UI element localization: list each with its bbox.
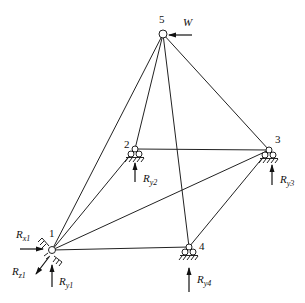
node-4-roller-support xyxy=(179,244,198,260)
member-2-5 xyxy=(135,34,163,149)
member-1-3 xyxy=(52,150,269,250)
member-3-4 xyxy=(189,150,269,247)
node-1-joint xyxy=(49,247,56,254)
node-5-joint xyxy=(159,30,167,38)
node-3-label: 3 xyxy=(275,133,281,145)
member-1-5 xyxy=(52,34,163,250)
reaction-ry4-label: Ry4 xyxy=(196,273,211,288)
node-2-label: 2 xyxy=(124,138,130,150)
load-w-label: W xyxy=(183,16,193,28)
node-1-label: 1 xyxy=(49,227,55,239)
reaction-ry2-label: Ry2 xyxy=(142,172,157,187)
reaction-rx1-label: Rx1 xyxy=(15,228,30,243)
member-3-5 xyxy=(163,34,269,150)
node-5-label: 5 xyxy=(159,13,165,25)
truss-diagram: 5 W 2 Ry2 3 Ry3 xyxy=(0,0,305,303)
member-1-4 xyxy=(52,247,189,250)
node-4-label: 4 xyxy=(199,240,205,252)
node-3-roller-support xyxy=(259,147,278,163)
reaction-rz1-arrow xyxy=(36,257,49,274)
reaction-rz1-label: Rz1 xyxy=(11,265,26,280)
truss-members xyxy=(52,34,269,250)
reaction-ry3-label: Ry3 xyxy=(279,173,294,188)
member-2-3 xyxy=(135,149,269,150)
reaction-ry1-label: Ry1 xyxy=(58,275,73,290)
member-1-2 xyxy=(52,149,135,250)
member-4-5 xyxy=(163,34,189,247)
